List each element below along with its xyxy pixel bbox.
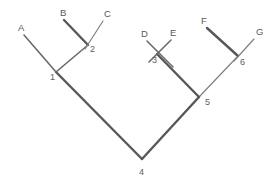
branch-tip-d: [147, 41, 173, 67]
branch-tip-a: [24, 35, 56, 72]
taxon-label-c: C: [104, 8, 111, 19]
taxon-label-g: G: [256, 26, 263, 37]
phylogenetic-tree-figure: A B C D E F G 1 2 3 4 5 6: [0, 0, 278, 183]
taxon-label-f: F: [201, 15, 207, 26]
branch-node3-node5: [157, 54, 199, 97]
node-label-6: 6: [240, 57, 245, 67]
tree-canvas: A B C D E F G 1 2 3 4 5 6: [0, 0, 278, 183]
node-label-5: 5: [205, 97, 210, 107]
branch-tip-b: [64, 20, 88, 45]
tip-branch-group: [24, 20, 254, 72]
branch-node1-node2: [56, 45, 88, 72]
node-label-1: 1: [50, 72, 55, 82]
taxon-label-d: D: [141, 28, 148, 39]
branch-tip-f: [207, 28, 238, 56]
taxon-label-b: B: [60, 7, 66, 18]
node-label-group: 1 2 3 4 5 6: [50, 44, 245, 177]
branch-node1-node4: [56, 72, 142, 159]
taxon-label-group: A B C D E F G: [18, 7, 263, 39]
node-label-4: 4: [139, 167, 144, 177]
taxon-label-e: E: [170, 27, 176, 38]
node-label-3: 3: [152, 55, 157, 65]
taxon-label-a: A: [18, 22, 25, 33]
node-label-2: 2: [90, 44, 95, 54]
branch-node5-node6: [199, 56, 238, 97]
branch-node4-node5: [142, 97, 199, 159]
internal-branch-group: [56, 45, 238, 159]
